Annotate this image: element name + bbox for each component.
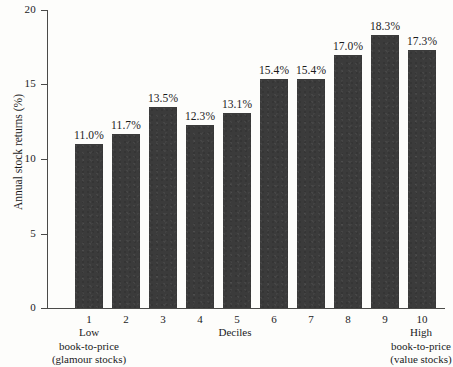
y-tick-label-15: 15 bbox=[8, 78, 36, 89]
bar-value-label-5: 13.1% bbox=[207, 98, 267, 110]
caption-left-line-2: book-to-price bbox=[19, 340, 159, 354]
x-tick-label-1: 1 bbox=[69, 313, 109, 325]
bar-decile-2[interactable] bbox=[112, 134, 140, 308]
bar-value-label-1: 11.0% bbox=[59, 129, 119, 141]
caption-right-line-1: High bbox=[351, 326, 453, 340]
x-tick-label-8: 8 bbox=[328, 313, 368, 325]
bar-decile-4[interactable] bbox=[186, 125, 214, 308]
bar-value-label-10: 17.3% bbox=[392, 35, 452, 47]
x-tick-label-6: 6 bbox=[254, 313, 294, 325]
x-tick-label-4: 4 bbox=[180, 313, 220, 325]
caption-low-book-to-price: Low book-to-price (glamour stocks) bbox=[19, 326, 159, 367]
x-tick-label-10: 10 bbox=[402, 313, 442, 325]
x-axis-line bbox=[47, 308, 445, 309]
bar-decile-5[interactable] bbox=[223, 113, 251, 308]
y-tick-label-20: 20 bbox=[8, 4, 36, 15]
bar-value-label-8: 17.0% bbox=[318, 40, 378, 52]
bar-value-label-9: 18.3% bbox=[355, 20, 415, 32]
caption-left-line-1: Low bbox=[19, 326, 159, 340]
bar-decile-10[interactable] bbox=[408, 50, 436, 308]
x-axis-title: Deciles bbox=[185, 326, 285, 340]
bar-value-label-3: 13.5% bbox=[133, 92, 193, 104]
bar-decile-1[interactable] bbox=[75, 144, 103, 308]
caption-high-book-to-price: High book-to-price (value stocks) bbox=[351, 326, 453, 367]
x-tick-label-5: 5 bbox=[217, 313, 257, 325]
x-tick-label-3: 3 bbox=[143, 313, 183, 325]
x-tick-label-9: 9 bbox=[365, 313, 405, 325]
bar-decile-8[interactable] bbox=[334, 55, 362, 308]
y-tick-label-0: 0 bbox=[8, 302, 36, 313]
y-axis-title: Annual stock returns (%) bbox=[12, 72, 24, 232]
plot-area: 11.0%11.7%13.5%12.3%13.1%15.4%15.4%17.0%… bbox=[47, 10, 445, 308]
x-tick-label-7: 7 bbox=[291, 313, 331, 325]
bar-value-label-7: 15.4% bbox=[281, 64, 341, 76]
caption-right-line-3: (value stocks) bbox=[351, 353, 453, 367]
x-tick-label-2: 2 bbox=[106, 313, 146, 325]
caption-left-line-3: (glamour stocks) bbox=[19, 353, 159, 367]
y-tick-label-10: 10 bbox=[8, 153, 36, 164]
bar-value-label-4: 12.3% bbox=[170, 110, 230, 122]
bar-decile-6[interactable] bbox=[260, 79, 288, 308]
bar-decile-3[interactable] bbox=[149, 107, 177, 308]
y-tick-label-5: 5 bbox=[8, 228, 36, 239]
caption-right-line-2: book-to-price bbox=[351, 340, 453, 354]
bar-decile-9[interactable] bbox=[371, 35, 399, 308]
bar-value-label-2: 11.7% bbox=[96, 119, 156, 131]
y-tick-mark-0 bbox=[41, 308, 48, 309]
bar-decile-7[interactable] bbox=[297, 79, 325, 308]
